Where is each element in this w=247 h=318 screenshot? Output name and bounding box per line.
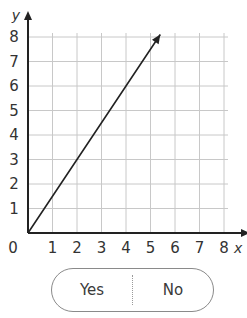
x-tick-label: 4 [121, 239, 131, 257]
x-tick-label: 2 [72, 239, 82, 257]
y-axis-label: y [11, 7, 21, 23]
line-chart: 12345678123456780xy [0, 0, 247, 258]
series-line [28, 35, 160, 233]
no-button[interactable]: No [133, 269, 213, 311]
data-line [28, 32, 164, 233]
x-tick-label: 3 [97, 239, 107, 257]
x-tick-label: 8 [219, 239, 229, 257]
x-axis-arrow-icon [241, 229, 247, 237]
y-tick-label: 4 [9, 126, 19, 144]
y-tick-label: 3 [9, 151, 19, 169]
y-tick-label: 1 [9, 200, 19, 218]
yes-no-toggle: Yes No [51, 268, 214, 312]
x-tick-label: 1 [48, 239, 58, 257]
y-tick-label: 8 [9, 28, 19, 46]
x-axis-label: x [233, 240, 243, 256]
line-arrow-icon [152, 32, 164, 44]
y-axis-arrow-icon [24, 11, 32, 20]
grid-lines [28, 33, 228, 233]
x-tick-label: 6 [170, 239, 180, 257]
yes-button[interactable]: Yes [52, 269, 132, 311]
y-tick-label: 5 [9, 102, 19, 120]
axes [24, 11, 247, 237]
y-tick-label: 7 [9, 53, 19, 71]
y-tick-label: 6 [9, 77, 19, 95]
x-tick-label: 5 [146, 239, 156, 257]
x-tick-label: 7 [195, 239, 205, 257]
origin-label: 0 [8, 239, 18, 257]
y-tick-label: 2 [9, 175, 19, 193]
